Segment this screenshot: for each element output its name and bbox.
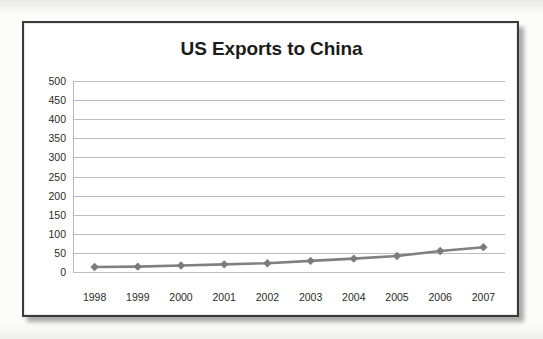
chart-frame-inner-border: US Exports to China 50045040035030025020… (24, 23, 517, 315)
data-point-2007 (479, 243, 487, 251)
y-tick-label-150: 150 (48, 209, 66, 221)
y-tick-label-0: 0 (60, 266, 66, 278)
y-tick-label-350: 350 (48, 132, 66, 144)
chart-title: US Exports to China (25, 38, 518, 60)
x-tick-label-2002: 2002 (256, 291, 279, 303)
data-point-2005 (393, 252, 401, 260)
x-tick-label-2007: 2007 (472, 291, 495, 303)
y-tick-label-450: 450 (48, 94, 66, 106)
data-point-2002 (263, 259, 271, 267)
x-tick-label-2000: 2000 (169, 291, 192, 303)
y-tick-label-300: 300 (48, 151, 66, 163)
line-chart: US Exports to China 50045040035030025020… (25, 24, 518, 316)
scanned-page: US Exports to China 50045040035030025020… (0, 0, 543, 339)
x-tick-label-2001: 2001 (213, 291, 236, 303)
y-tick-label-400: 400 (48, 113, 66, 125)
y-tick-label-250: 250 (48, 171, 66, 183)
data-point-2004 (350, 254, 358, 262)
x-tick-label-2004: 2004 (342, 291, 365, 303)
data-point-2000 (177, 261, 185, 269)
data-series-line (73, 81, 505, 272)
y-tick-label-100: 100 (48, 228, 66, 240)
chart-frame: US Exports to China 50045040035030025020… (22, 21, 519, 317)
data-point-1998 (90, 263, 98, 271)
y-tick-label-500: 500 (48, 75, 66, 87)
data-point-1999 (134, 262, 142, 270)
gridline-0 (73, 272, 505, 273)
data-point-2006 (436, 247, 444, 255)
y-tick-label-200: 200 (48, 190, 66, 202)
plot-area: 500450400350300250200150100500 199819992… (73, 81, 505, 272)
data-point-2003 (306, 257, 314, 265)
x-tick-label-1998: 1998 (83, 291, 106, 303)
y-tick-label-50: 50 (54, 247, 66, 259)
data-point-2001 (220, 260, 228, 268)
x-tick-label-2006: 2006 (429, 291, 452, 303)
x-tick-label-1999: 1999 (126, 291, 149, 303)
x-tick-label-2005: 2005 (385, 291, 408, 303)
x-tick-label-2003: 2003 (299, 291, 322, 303)
